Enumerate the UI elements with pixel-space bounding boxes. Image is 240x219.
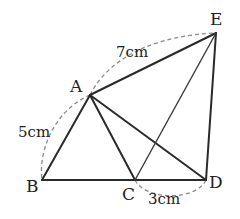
geometry-diagram: A B C D E 5cm 7cm 3cm — [0, 0, 240, 219]
segment-ad — [90, 95, 206, 180]
segment-ae — [90, 33, 216, 95]
point-label-a: A — [69, 76, 83, 96]
point-label-b: B — [26, 176, 39, 196]
point-label-c: C — [122, 184, 135, 204]
length-label-ab: 5cm — [18, 123, 50, 141]
point-label-d: D — [209, 172, 223, 192]
segment-ed — [206, 33, 216, 180]
segment-ac — [90, 95, 135, 180]
length-label-ae: 7cm — [116, 43, 148, 61]
point-label-e: E — [210, 9, 222, 29]
length-label-cd: 3cm — [148, 190, 180, 208]
